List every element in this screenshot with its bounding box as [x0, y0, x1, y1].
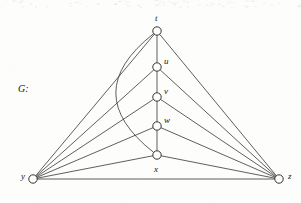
vertex-label-x: x — [154, 165, 158, 174]
vertex-w — [153, 122, 161, 130]
vertex-x — [153, 151, 161, 159]
vertex-label-t: t — [155, 14, 158, 23]
vertex-label-u: u — [164, 57, 169, 66]
graph-name-label: G: — [18, 84, 29, 94]
edge-t-x — [116, 34, 154, 153]
vertex-layer — [29, 27, 283, 183]
vertex-z — [275, 175, 283, 183]
graph-figure: G: tuvwxyz — [0, 0, 301, 203]
vertex-y — [29, 175, 37, 183]
vertex-label-v: v — [164, 87, 168, 96]
edge-v-z — [160, 99, 275, 176]
vertex-t — [153, 27, 161, 35]
vertex-label-y: y — [21, 172, 25, 181]
edge-w-y — [37, 128, 153, 178]
vertex-u — [153, 63, 161, 71]
vertex-v — [153, 93, 161, 101]
edge-t-y — [36, 34, 155, 176]
edge-v-y — [37, 99, 154, 176]
edge-t-z — [160, 34, 277, 176]
edge-u-y — [36, 70, 154, 176]
vertex-label-w: w — [164, 116, 170, 125]
edge-u-z — [160, 70, 276, 176]
edge-w-z — [161, 128, 275, 178]
vertex-label-z: z — [288, 172, 292, 181]
graph-drawing-canvas — [0, 0, 301, 203]
